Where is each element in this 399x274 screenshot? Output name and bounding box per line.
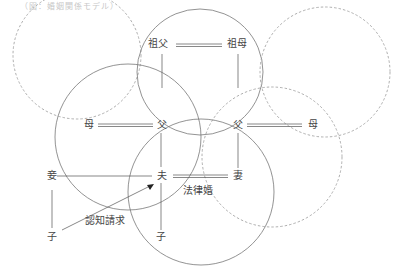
grandparents-family-circle [137, 9, 263, 135]
node-concubine: 妾 [47, 171, 57, 181]
node-right-father: 父 [233, 120, 243, 130]
node-wife: 妻 [233, 171, 243, 181]
node-left-mother: 母 [84, 120, 94, 130]
node-husband: 夫 [157, 171, 167, 181]
family-relations-diagram [0, 0, 399, 274]
top-right-family-circle [260, 7, 390, 137]
wife-parents-family-circle [202, 87, 342, 227]
node-left-father: 父 [157, 120, 167, 130]
node-right-mother: 母 [308, 120, 318, 130]
legal-marriage-label: 法律婚 [183, 186, 213, 196]
node-child-center: 子 [156, 232, 166, 242]
node-child-left: 子 [47, 232, 57, 242]
top-left-family-circle [13, 0, 141, 119]
node-grandfather: 祖父 [148, 39, 168, 49]
acknowledgment-claim-label: 認知請求 [85, 216, 125, 226]
node-grandmother: 祖母 [227, 39, 247, 49]
